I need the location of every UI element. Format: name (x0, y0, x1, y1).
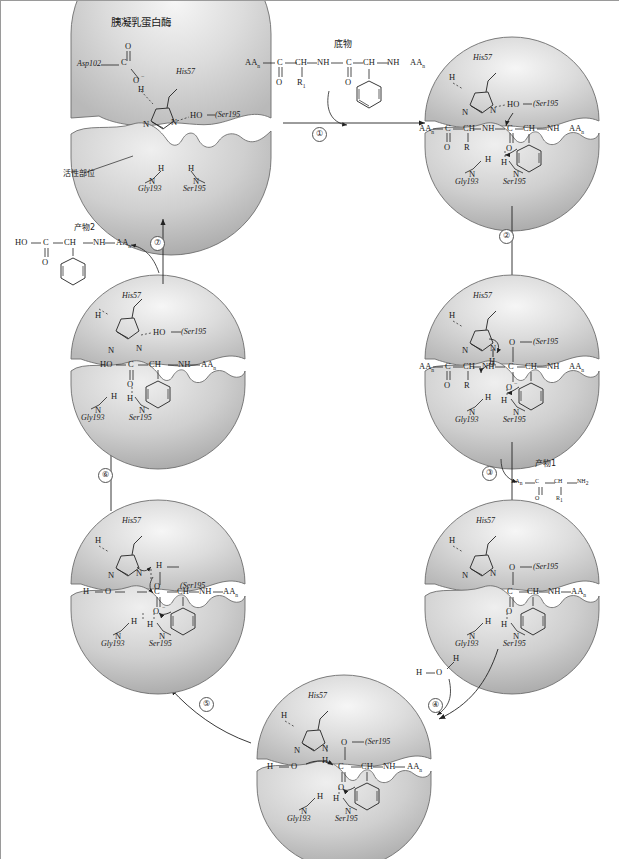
atom-his-n1-p4: N (462, 570, 468, 580)
label-ser195-oxy-p3: Ser195 (503, 415, 526, 424)
p2-gly-h: H (485, 154, 491, 164)
atom-h-bond-h: H (138, 84, 144, 94)
p7-nh: NH (178, 359, 190, 369)
figure-canvas: 胰凝乳蛋白酶 Asp102 C O O − H His57 N N HO (Se… (0, 0, 619, 859)
sub-ch2: CH (363, 57, 375, 67)
atom-his-n1-p3: N (462, 345, 468, 355)
substrate-structure (263, 63, 389, 125)
label-ser195-p4: (Ser195 (533, 562, 558, 571)
label-ser195-p1: (Ser195 (215, 110, 240, 119)
atom-ser-oh-p1: HO (190, 110, 202, 120)
atom-his-h-p6: H (156, 560, 162, 570)
p5-h: H (267, 761, 273, 771)
charge-minus: − (141, 73, 144, 79)
atom-asp-h-p7: H (95, 310, 101, 320)
p6-ch: CH (177, 586, 189, 596)
step-marker-6: ⑥ (98, 468, 113, 483)
atom-his-n1-p5: N (294, 745, 300, 755)
label-his57-p3: His57 (473, 291, 492, 300)
p4-ch: CH (527, 586, 539, 596)
p3-ser-h: H (501, 395, 507, 405)
water-h2: H (453, 653, 459, 663)
p7-gly-h: H (111, 391, 117, 401)
label-his57-p6: His57 (122, 516, 141, 525)
atom-ser-o-p3: O (509, 337, 515, 347)
label-asp102: Asp102 (77, 59, 101, 68)
atom-his-h-p5: H (322, 755, 328, 765)
p4-aa: AAn (571, 586, 586, 598)
atom-his-n3-p3: N (490, 343, 496, 353)
p5-gly-h: H (317, 791, 323, 801)
atom-his-n3-p5: N (322, 743, 328, 753)
p2-r: R (464, 142, 470, 152)
prod1-c: C (535, 478, 539, 484)
label-his57-p1: His57 (176, 67, 195, 76)
sub-r1: R1 (297, 77, 305, 89)
p3-charge-minus: − (514, 380, 517, 386)
atom-his-n3-p1: N (171, 117, 177, 127)
sub-c2: C (346, 57, 352, 67)
sub-aa-left: AAn (245, 57, 260, 69)
p2-ch2: CH (523, 123, 535, 133)
p5-o-water: O (291, 761, 297, 771)
atom-asp-o-double: O (125, 41, 131, 51)
prod2-o: O (42, 257, 48, 267)
step-marker-4: ④ (428, 698, 443, 713)
p7-ch: CH (149, 359, 161, 369)
p3-ch1: CH (463, 361, 475, 371)
sub-nh1: NH (317, 57, 329, 67)
p4-c: C (507, 586, 513, 596)
sub-nh2: NH (387, 57, 399, 67)
step-marker-7: ⑦ (150, 236, 165, 251)
atom-his-n1-p7: N (108, 345, 114, 355)
p3-ch2: CH (525, 361, 537, 371)
product1-structure (525, 483, 577, 495)
water-o: O (436, 667, 442, 677)
atom-ser-o-p4: O (509, 562, 515, 572)
sub-o1: O (276, 77, 282, 87)
label-product1: 产物1 (535, 457, 556, 468)
atom-ser-ho-p7: HO (153, 327, 165, 337)
label-gly193-p7: Gly193 (81, 413, 105, 422)
atom-ser-o-p5: O (341, 737, 347, 747)
p2-nh2: NH (547, 123, 559, 133)
label-product2: 产物2 (74, 221, 95, 232)
label-ser195-oxy-p7: Ser195 (129, 413, 152, 422)
prod1-ch: CH (554, 478, 562, 484)
panel-water-attack (257, 675, 431, 859)
p2-c2: C (507, 123, 513, 133)
p3-r: R (464, 380, 470, 390)
p2-nh1: NH (482, 123, 494, 133)
label-gly193-p2: Gly193 (455, 177, 479, 186)
p6-h: H (83, 586, 89, 596)
sub-o2: O (345, 77, 351, 87)
step-marker-1: ① (312, 127, 327, 142)
label-his57-p7: His57 (122, 291, 141, 300)
p5-c: C (338, 761, 344, 771)
atom-asp-h-p6: H (95, 535, 101, 545)
p2-aa-right: AAn (569, 123, 584, 135)
atom-ser195-h: H (188, 163, 194, 173)
p5-o-carbonyl: O (338, 782, 344, 792)
label-ser195-p2: (Ser195 (533, 99, 558, 108)
prod2-ho: HO (15, 237, 27, 247)
p5-ser-h: H (333, 793, 339, 803)
p7-ho: HO (100, 359, 112, 369)
atom-his-n1-p2: N (462, 107, 468, 117)
step-marker-2: ② (499, 229, 514, 244)
label-ser195-oxy-p6: Ser195 (149, 639, 172, 648)
label-ser195-p5: (Ser195 (365, 737, 390, 746)
p6-aa: AAn (223, 586, 238, 598)
p2-ser-h: H (501, 157, 507, 167)
p3-c1: C (445, 361, 451, 371)
p3-c2: C (508, 361, 514, 371)
p5-aa: AAn (407, 761, 422, 773)
p2-o2: O (506, 143, 512, 153)
p3-nh1: NH (482, 361, 494, 371)
label-ser195-oxy-p1: Ser195 (183, 184, 206, 193)
p2-ch1: CH (463, 123, 475, 133)
atom-his-n3-p6: N (136, 568, 142, 578)
prod2-nh: NH (93, 237, 105, 247)
atom-his-n3-p2: N (490, 105, 496, 115)
p6-c: C (154, 586, 160, 596)
